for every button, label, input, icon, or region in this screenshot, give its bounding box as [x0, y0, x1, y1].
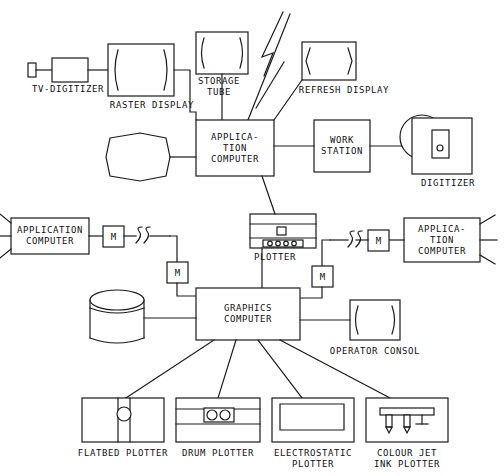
raster-display-icon: [108, 44, 174, 96]
disk-cylinder-icon: [90, 290, 144, 343]
link-modemrightupper-squiggle: [322, 231, 368, 266]
modem-left-upper-label: M: [111, 232, 116, 242]
plotter-icon: [250, 214, 316, 248]
drum-plotter-icon: [176, 398, 260, 442]
lightning-bolt-icon: [248, 12, 290, 120]
jet-plotter-icon: [366, 398, 448, 442]
link-plotter-to-appcomputer: [262, 176, 275, 214]
digitizer-icon: [400, 115, 472, 174]
raster-display-label: RASTER DISPLAY: [110, 100, 194, 111]
application-computer-left-label: APPLICATION COMPUTER: [17, 225, 83, 247]
work-station-label: WORK STATION: [321, 135, 363, 157]
graphics-computer-label: GRAPHICS COMPUTER: [224, 303, 272, 325]
application-computer-right-label: APPLICA- TION COMPUTER: [418, 224, 466, 257]
link-refresh-to-appcomputer: [274, 80, 302, 120]
refresh-display-label: REFRESH DISPLAY: [299, 85, 389, 96]
modem-right-upper-label: M: [376, 236, 381, 246]
storage-tube-icon: [196, 32, 248, 74]
modem-left-lower-label: M: [175, 268, 180, 278]
flatbed-plotter-icon: [82, 398, 164, 442]
electrostatic-plotter-icon: [272, 398, 354, 442]
link-modemrightlower-to-graphics: [300, 287, 322, 298]
drum-plotter-label: DRUM PLOTTER: [182, 448, 254, 459]
modem-right-lower-label: M: [320, 272, 325, 282]
link-graphics-to-flatbed: [126, 340, 214, 398]
diagram-canvas: TV-DIGITIZER RASTER DISPLAY STORAGE TUBE…: [0, 0, 504, 476]
digitizer-label: DIGITIZER: [421, 178, 475, 189]
drum-storage-icon: [106, 133, 170, 181]
link-raster-to-appcomputer: [174, 70, 196, 120]
plotter-label: PLOTTER: [254, 252, 296, 263]
tv-digitizer-label: TV-DIGITIZER: [32, 84, 104, 95]
colour-jet-ink-plotter-label: COLOUR JET INK PLOTTER: [374, 448, 440, 470]
link-modemleftupper-squiggle: [124, 227, 177, 262]
link-graphics-to-drum: [218, 340, 236, 398]
operator-consol-icon: [350, 300, 400, 340]
electrostatic-plotter-label: ELECTROSTATIC PLOTTER: [274, 448, 352, 470]
flatbed-plotter-label: FLATBED PLOTTER: [78, 448, 168, 459]
operator-consol-label: OPERATOR CONSOL: [330, 346, 420, 357]
tv-digitizer-icon: [28, 58, 108, 82]
link-modemleftlower-to-graphics: [177, 283, 196, 296]
refresh-display-icon: [302, 42, 356, 80]
application-computer-center-label: APPLICA- TION COMPUTER: [211, 132, 259, 165]
storage-tube-label: STORAGE TUBE: [198, 76, 240, 98]
